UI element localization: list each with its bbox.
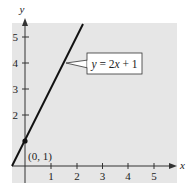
point-label: (0, 1) (28, 150, 52, 163)
y-tick-label: 3 (13, 83, 19, 95)
x-tick-label: 3 (100, 170, 106, 182)
y-tick-label: 4 (13, 57, 19, 69)
data-point-0-1 (22, 138, 27, 143)
y-axis-label: y (19, 3, 25, 15)
line-chart: x 1 2 3 4 5 y 5 4 3 2 (0, 1) y = 2x + 1 (0, 0, 191, 191)
x-tick-label: 1 (48, 170, 54, 182)
y-tick-label: 5 (13, 31, 19, 43)
x-tick-label: 2 (74, 170, 80, 182)
y-axis-arrow-icon (22, 18, 28, 26)
x-tick-label: 5 (151, 170, 157, 182)
equation-label: y = 2x + 1 (90, 58, 137, 71)
x-axis-label: x (179, 159, 185, 171)
x-tick-label: 4 (125, 170, 131, 182)
y-tick-label: 2 (13, 109, 19, 121)
